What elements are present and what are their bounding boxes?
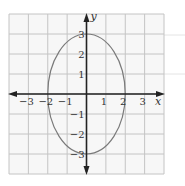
x-tick-label: 1 — [101, 96, 107, 107]
y-axis-label: y — [90, 10, 98, 23]
x-tick-label: −3 — [19, 96, 34, 107]
y-tick-label: 1 — [78, 69, 84, 80]
y-tick-label: −3 — [70, 149, 85, 160]
x-tick-label: 3 — [139, 96, 145, 107]
x-tick-label: 2 — [120, 96, 126, 107]
y-tick-label: −2 — [70, 129, 85, 140]
x-axis-label: x — [155, 95, 162, 108]
y-tick-label: 2 — [78, 49, 84, 60]
y-tick-label: 3 — [78, 29, 84, 40]
x-tick-label: −1 — [58, 96, 73, 107]
ellipse-graph: −3−2−1123−3−2−1123xy — [0, 0, 185, 186]
y-tick-label: −1 — [70, 109, 85, 120]
x-tick-label: −2 — [38, 96, 53, 107]
